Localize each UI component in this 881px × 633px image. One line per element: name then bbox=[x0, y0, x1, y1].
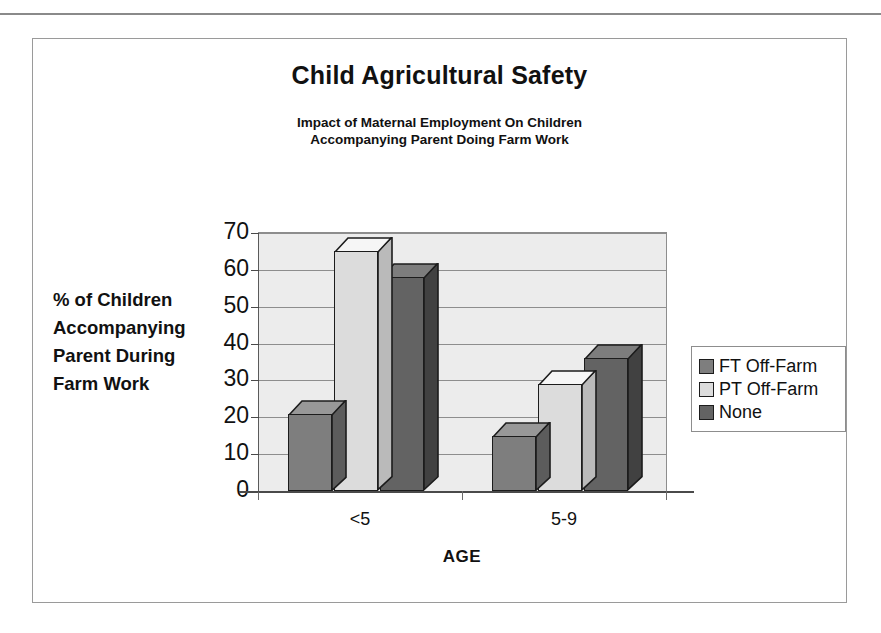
gridline bbox=[258, 233, 666, 234]
y-axis-tick bbox=[251, 454, 259, 455]
y-axis-tick-label: 60 bbox=[205, 257, 249, 280]
y-axis-tick-label: 40 bbox=[205, 331, 249, 354]
legend-label-pt-off-farm: PT Off-Farm bbox=[719, 378, 818, 400]
plot-wrap: % of Children Accompanying Parent During… bbox=[33, 39, 846, 602]
y-axis-tick-label: 50 bbox=[205, 294, 249, 317]
bar-top-face bbox=[538, 370, 582, 384]
legend-label-none: None bbox=[719, 401, 762, 423]
bar-side-face bbox=[378, 237, 392, 491]
chart-page: Child Agricultural Safety Impact of Mate… bbox=[0, 0, 881, 633]
y-axis-tick-label: 20 bbox=[205, 404, 249, 427]
legend-item-pt-off-farm[interactable]: PT Off-Farm bbox=[699, 378, 837, 400]
legend-label-ft-off-farm: FT Off-Farm bbox=[719, 355, 817, 377]
y-axis-tick-label: 70 bbox=[205, 220, 249, 243]
gridline bbox=[258, 307, 666, 308]
y-axis-tick bbox=[251, 270, 259, 271]
y-axis-tick-label: 30 bbox=[205, 367, 249, 390]
bar-front-face bbox=[492, 436, 536, 491]
legend: FT Off-Farm PT Off-Farm None bbox=[691, 346, 846, 432]
legend-swatch-icon-ft-off-farm bbox=[699, 359, 714, 374]
legend-item-ft-off-farm[interactable]: FT Off-Farm bbox=[699, 355, 837, 377]
bar-top-face bbox=[492, 422, 536, 436]
y-axis-labels: 706050403020100 bbox=[193, 39, 249, 602]
bar-side-face bbox=[628, 344, 642, 491]
y-axis-tick bbox=[251, 380, 259, 381]
bar-top-face bbox=[584, 344, 628, 358]
legend-swatch-icon-pt-off-farm bbox=[699, 382, 714, 397]
bar-top-face bbox=[334, 237, 378, 251]
y-axis-tick bbox=[251, 417, 259, 418]
x-axis-tick bbox=[462, 491, 463, 500]
y-axis-tick bbox=[251, 307, 259, 308]
x-axis-tick bbox=[258, 491, 259, 500]
page-top-rule bbox=[0, 13, 881, 15]
bar-front-face bbox=[288, 414, 332, 491]
bar-side-face bbox=[582, 370, 596, 491]
x-axis-category-label: <5 bbox=[300, 509, 420, 530]
y-axis-tick-label: 0 bbox=[205, 478, 249, 501]
bar-side-face bbox=[424, 263, 438, 491]
bar-top-face bbox=[288, 400, 332, 414]
x-axis-line bbox=[239, 491, 694, 493]
legend-swatch-icon-none bbox=[699, 405, 714, 420]
y-axis-tick bbox=[251, 344, 259, 345]
x-axis-tick bbox=[666, 491, 667, 500]
bar bbox=[288, 400, 332, 491]
x-axis-category-label: 5-9 bbox=[504, 509, 624, 530]
y-axis-tick bbox=[251, 491, 259, 492]
y-axis-tick bbox=[251, 233, 259, 234]
x-axis-title: AGE bbox=[258, 547, 666, 567]
legend-item-none[interactable]: None bbox=[699, 401, 837, 423]
bar bbox=[492, 422, 536, 491]
chart-frame: Child Agricultural Safety Impact of Mate… bbox=[32, 38, 847, 603]
plot-right-border bbox=[666, 232, 667, 491]
gridline bbox=[258, 270, 666, 271]
y-axis-tick-label: 10 bbox=[205, 441, 249, 464]
